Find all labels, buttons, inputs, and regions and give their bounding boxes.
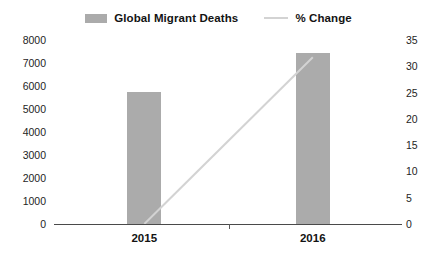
percent-change-polyline <box>144 57 312 224</box>
chart-container: Global Migrant Deaths % Change 800070006… <box>0 0 437 262</box>
y-axis-right-tick-label: 20 <box>406 114 436 125</box>
x-axis-tick-label-2015: 2015 <box>131 232 157 244</box>
y-axis-left-tick-label: 2000 <box>0 173 46 184</box>
y-axis-right-tick-label: 35 <box>406 35 436 46</box>
y-axis-right-tick-label: 30 <box>406 61 436 72</box>
y-axis-left-tick-label: 7000 <box>0 58 46 69</box>
y-axis-left-tick-label: 5000 <box>0 104 46 115</box>
line-swatch-icon <box>264 17 288 19</box>
y-axis-left-tick-label: 0 <box>0 219 46 230</box>
y-axis-right-tick-label: 0 <box>406 219 436 230</box>
y-axis-left-tick-label: 3000 <box>0 150 46 161</box>
y-axis-left-tick-label: 6000 <box>0 81 46 92</box>
y-axis-right-tick-label: 15 <box>406 140 436 151</box>
plot-area <box>60 40 397 224</box>
x-axis-separator-tickmark <box>229 224 230 229</box>
x-axis-tick-label-2016: 2016 <box>300 232 326 244</box>
y-axis-right-tick-label: 10 <box>406 166 436 177</box>
y-axis-right-tick-label: 25 <box>406 87 436 98</box>
legend-entry-global-migrant-deaths[interactable]: Global Migrant Deaths <box>85 12 238 24</box>
y-axis-left-tick-label: 1000 <box>0 196 46 207</box>
legend-label-percent-change: % Change <box>295 12 351 24</box>
y-axis-left-tick-label: 4000 <box>0 127 46 138</box>
legend-entry-percent-change[interactable]: % Change <box>264 12 351 24</box>
bar-swatch-icon <box>85 14 107 23</box>
line-series-percent-change <box>60 40 397 224</box>
y-axis-left-tick-label: 8000 <box>0 35 46 46</box>
chart-legend: Global Migrant Deaths % Change <box>0 10 437 26</box>
y-axis-right-tick-label: 5 <box>406 192 436 203</box>
legend-label-global-migrant-deaths: Global Migrant Deaths <box>114 12 238 24</box>
